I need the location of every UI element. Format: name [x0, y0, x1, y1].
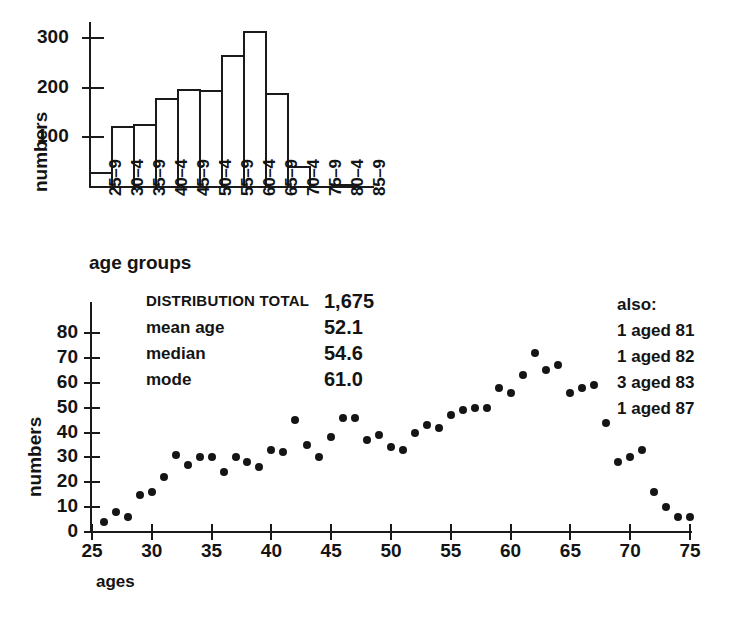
stat-value-total: 1,675: [324, 290, 434, 313]
histogram-y-axis-line: [89, 22, 91, 188]
scatter-y-ticklabel: 40: [32, 421, 78, 443]
scatter-point: [160, 473, 168, 481]
also-row-83: 3 aged 83: [617, 370, 695, 396]
stat-value-mean: 52.1: [324, 316, 394, 339]
scatter-x-ticklabel: 70: [610, 540, 650, 562]
scatter-point: [662, 503, 670, 511]
scatter-point: [315, 453, 323, 461]
scatter-point: [351, 414, 359, 422]
scatter-point: [267, 446, 275, 454]
scatter-x-tick: [151, 524, 153, 540]
scatter-x-tick: [211, 524, 213, 540]
scatter-x-ticklabel: 65: [550, 540, 590, 562]
scatter-x-tick: [569, 524, 571, 540]
scatter-point: [674, 513, 682, 521]
scatter-x-tick: [689, 524, 691, 540]
scatter-point: [650, 488, 658, 496]
scatter-x-tick: [91, 524, 93, 540]
scatter-point: [531, 349, 539, 357]
histogram-category-label: 55–9: [238, 159, 258, 196]
scatter-point: [363, 436, 371, 444]
scatter-point: [112, 508, 120, 516]
scatter-x-ticklabel: 55: [431, 540, 471, 562]
scatter-y-ticklabel: 10: [32, 495, 78, 517]
histogram-y-ticklabel-100: 100: [37, 125, 69, 147]
histogram-category-label: 45–9: [194, 159, 214, 196]
scatter-point: [578, 384, 586, 392]
scatter-y-tick: [84, 432, 100, 434]
scatter-y-ticklabel: 0: [32, 520, 78, 542]
scatter-y-tick: [84, 481, 100, 483]
scatter-point: [590, 381, 598, 389]
histogram-category-label: 80–4: [348, 159, 368, 196]
scatter-point: [638, 446, 646, 454]
scatter-x-tick: [390, 524, 392, 540]
also-heading: also:: [617, 292, 695, 318]
histogram-y-axis-title: numbers: [30, 112, 52, 192]
histogram-category-label: 70–4: [304, 159, 324, 196]
also-block: also: 1 aged 81 1 aged 82 3 aged 83 1 ag…: [617, 292, 695, 422]
histogram-category-label: 40–4: [172, 159, 192, 196]
scatter-point: [184, 461, 192, 469]
scatter-point: [291, 416, 299, 424]
scatter-point: [327, 433, 335, 441]
scatter-point: [447, 411, 455, 419]
scatter-point: [136, 491, 144, 499]
scatter-x-ticklabel: 75: [670, 540, 710, 562]
scatter-point: [399, 446, 407, 454]
histogram-category-label: 65–9: [282, 159, 302, 196]
scatter-point: [626, 453, 634, 461]
histogram-y-ticklabel-200: 200: [37, 76, 69, 98]
scatter-point: [255, 463, 263, 471]
scatter-point: [542, 366, 550, 374]
scatter-x-ticklabel: 30: [132, 540, 172, 562]
scatter-y-ticklabel: 20: [32, 470, 78, 492]
scatter-point: [232, 453, 240, 461]
stat-value-median: 54.6: [324, 342, 394, 365]
scatter-x-tick: [450, 524, 452, 540]
scatter-y-tick: [84, 357, 100, 359]
scatter-point: [196, 453, 204, 461]
scatter-point: [387, 443, 395, 451]
histogram-category-label: 30–4: [128, 159, 148, 196]
scatter-point: [220, 468, 228, 476]
stat-label-median: median: [146, 344, 206, 364]
scatter-point: [471, 404, 479, 412]
scatter-x-tick: [629, 524, 631, 540]
scatter-x-tick: [270, 524, 272, 540]
scatter-x-tick: [330, 524, 332, 540]
scatter-y-ticklabel: 80: [32, 321, 78, 343]
histogram-category-label: 60–4: [260, 159, 280, 196]
stat-value-mode: 61.0: [324, 368, 394, 391]
scatter-point: [459, 406, 467, 414]
scatter-point: [124, 513, 132, 521]
scatter-x-ticklabel: 60: [491, 540, 531, 562]
scatter-y-ticklabel: 30: [32, 445, 78, 467]
histogram-category-label: 75–9: [326, 159, 346, 196]
scatter-x-ticklabel: 35: [192, 540, 232, 562]
scatter-point: [519, 371, 527, 379]
histogram-chart: numbers 100 200 300 25–930–435–940–445–9…: [0, 0, 420, 285]
scatter-point: [303, 441, 311, 449]
scatter-point: [172, 451, 180, 459]
stat-label-total: DISTRIBUTION TOTAL: [146, 292, 309, 309]
scatter-y-tick: [84, 332, 100, 334]
scatter-point: [411, 429, 419, 437]
also-row-82: 1 aged 82: [617, 344, 695, 370]
histogram-category-label: 50–4: [216, 159, 236, 196]
scatter-x-tick: [510, 524, 512, 540]
scatter-point: [554, 361, 562, 369]
scatter-point: [602, 419, 610, 427]
histogram-category-label: 25–9: [106, 159, 126, 196]
histogram-category-label: 85–9: [370, 159, 390, 196]
scatter-y-tick: [84, 382, 100, 384]
scatter-chart: numbers 01020304050607080 25303540455055…: [0, 282, 741, 618]
scatter-point: [100, 518, 108, 526]
scatter-point: [566, 389, 574, 397]
scatter-point: [423, 421, 431, 429]
histogram-category-label: 35–9: [150, 159, 170, 196]
scatter-x-axis-title: ages: [96, 572, 135, 592]
scatter-y-tick: [84, 506, 100, 508]
scatter-point: [507, 389, 515, 397]
scatter-x-ticklabel: 45: [311, 540, 351, 562]
